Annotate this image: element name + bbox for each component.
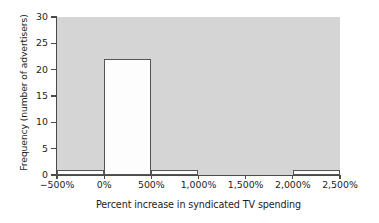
bar-bin-500-1000 [151, 170, 198, 175]
y-tick-mark [51, 122, 56, 123]
y-tick-mark [51, 148, 56, 149]
bar-bin-neg500-0 [57, 170, 104, 175]
x-axis-title: Percent increase in syndicated TV spendi… [57, 199, 340, 210]
histogram-figure: Frequency (number of advertisers) 051015… [0, 0, 379, 223]
y-tick-mark [51, 16, 56, 17]
y-tick-mark [51, 95, 56, 96]
bar-bin-0-500 [104, 59, 151, 175]
plot-area [57, 17, 340, 175]
y-tick-label: 20 [8, 65, 48, 75]
y-tick-mark [51, 69, 56, 70]
y-tick-mark [51, 174, 56, 175]
bar-bin-2000-2500 [293, 170, 340, 175]
y-tick-label: 10 [8, 117, 48, 127]
y-tick-label: 30 [8, 12, 48, 22]
y-tick-label: 25 [8, 38, 48, 48]
y-tick-mark [51, 43, 56, 44]
x-tick-label: 2,500% [305, 179, 375, 191]
y-tick-label: 5 [8, 144, 48, 154]
y-tick-label: 15 [8, 91, 48, 101]
y-axis-line [56, 16, 57, 176]
